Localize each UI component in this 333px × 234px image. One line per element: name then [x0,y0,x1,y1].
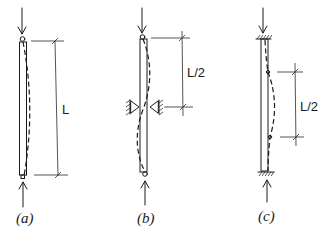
top-load-arrow-icon [138,8,146,33]
panel-a: L (a) [16,8,69,227]
dimension-label-b: L/2 [187,65,205,80]
caption-c: (c) [258,208,275,225]
bottom-pin-icon [21,175,25,179]
column [261,39,268,171]
dimension-label-c: L/2 [300,99,318,114]
buckling-diagram: L (a) [0,0,333,234]
deflected-shape [265,40,275,171]
panel-b: L/2 (b) [126,8,205,227]
column [20,42,27,175]
fixed-support-bottom-icon [258,172,274,176]
bottom-load-arrow-icon [141,181,149,205]
deflected-shape [137,39,150,172]
bottom-load-arrow-icon [19,182,27,207]
top-pin-icon [20,37,25,42]
top-load-arrow-icon [259,8,267,33]
column [140,39,147,172]
fixed-support-top-icon [256,35,272,39]
dimension-label-a: L [62,102,69,117]
panel-c: L/2 (c) [256,8,318,225]
top-load-arrow-icon [18,8,26,34]
caption-a: (a) [16,210,34,227]
bottom-load-arrow-icon [263,180,271,202]
lateral-brace-icon [126,100,163,115]
caption-b: (b) [137,210,155,227]
